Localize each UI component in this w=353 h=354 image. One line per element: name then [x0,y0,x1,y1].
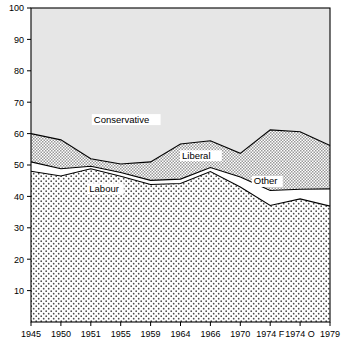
x-tick-label: 1959 [141,329,161,339]
series-label-other: Other [254,175,278,186]
y-tick-label: 40 [14,192,24,202]
y-tick-label: 50 [14,160,24,170]
y-tick-label: 90 [14,35,24,45]
chart-container: 102030405060708090100 194519501951195519… [0,0,353,354]
x-tick-label: 1979 [320,329,340,339]
y-tick-label: 70 [14,98,24,108]
y-tick-label: 10 [14,286,24,296]
y-tick-label: 30 [14,223,24,233]
series-label-labour: Labour [89,183,119,194]
y-tick-label: 100 [9,3,24,13]
y-tick-label: 80 [14,66,24,76]
y-tick-label: 20 [14,255,24,265]
y-tick-label: 60 [14,129,24,139]
series-label-conservative: Conservative [94,114,149,125]
x-tick-label: 1955 [111,329,131,339]
x-tick-label: 1964 [170,329,190,339]
x-tick-label: 1951 [81,329,101,339]
y-axis: 102030405060708090100 [9,3,31,296]
series-label-liberal: Liberal [182,150,211,161]
x-tick-label: 1970 [230,329,250,339]
x-tick-label: 1974 O [285,329,315,339]
x-tick-label: 1966 [200,329,220,339]
x-tick-label: 1945 [21,329,41,339]
x-tick-label: 1950 [51,329,71,339]
x-axis: 194519501951195519591964196619701974 F19… [21,322,340,339]
stacked-area-chart: 102030405060708090100 194519501951195519… [0,0,353,354]
x-tick-label: 1974 F [256,329,285,339]
plot-bands [31,8,330,322]
